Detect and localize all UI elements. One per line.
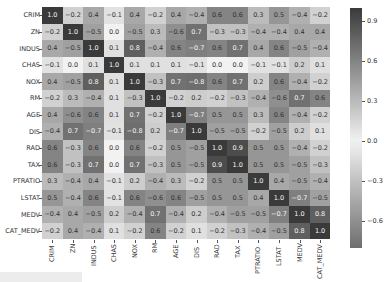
heatmap-cell: 0.3: [166, 173, 187, 190]
y-tick: [39, 82, 42, 83]
x-tick-label: RM: [151, 243, 159, 253]
x-tick: [197, 240, 198, 243]
x-tick-label: DIS: [193, 247, 201, 258]
heatmap-cell: −0.2: [145, 107, 166, 124]
x-tick: [94, 240, 95, 243]
heatmap-cell: 0.1: [104, 107, 125, 124]
heatmap-cell: 0.2: [289, 57, 310, 74]
heatmap-cell: 0.6: [42, 156, 63, 173]
heatmap-cell: −0.5: [269, 223, 290, 240]
heatmap-cell: 0.5: [42, 190, 63, 207]
heatmap-cell: −0.1: [248, 57, 269, 74]
heatmap-cell: 0.4: [83, 7, 104, 24]
heatmap-cell: 0.5: [227, 173, 248, 190]
heatmap-cell: 0.1: [104, 223, 125, 240]
heatmap-cell: −0.7: [289, 190, 310, 207]
y-tick: [39, 49, 42, 50]
heatmap-cell: −0.3: [310, 156, 331, 173]
colorbar-tick: [362, 181, 365, 182]
heatmap-cell: −0.5: [83, 206, 104, 223]
heatmap-cell: 0.4: [83, 173, 104, 190]
heatmap-cell: 0.6: [269, 73, 290, 90]
heatmap-cell: 0.4: [124, 7, 145, 24]
heatmap-cell: 0.5: [207, 107, 228, 124]
y-tick: [39, 115, 42, 116]
heatmap-cell: 1.0: [269, 190, 290, 207]
colorbar-tick-label: −0.3: [367, 177, 383, 185]
colorbar-tick: [362, 141, 365, 142]
heatmap-cell: 0.0: [104, 24, 125, 41]
heatmap-cell: −0.4: [42, 123, 63, 140]
heatmap-cell: −0.4: [248, 223, 269, 240]
heatmap-cell: 0.0: [227, 57, 248, 74]
heatmap-cell: 0.0: [104, 156, 125, 173]
heatmap-cell: 0.7: [124, 156, 145, 173]
heatmap-cell: 0.1: [166, 57, 187, 74]
y-tick: [39, 231, 42, 232]
heatmap-cell: 0.2: [186, 90, 207, 107]
colorbar: [350, 8, 362, 248]
heatmap-cell: −0.4: [310, 40, 331, 57]
y-tick-label: MEDV: [21, 211, 40, 219]
y-tick-label: AGE: [27, 111, 40, 119]
heatmap-cell: −0.4: [145, 40, 166, 57]
heatmap-cell: −0.4: [83, 90, 104, 107]
heatmap-cell: 0.1: [104, 90, 125, 107]
colorbar-tick-label: 0.6: [367, 57, 377, 65]
heatmap-cell: 0.7: [124, 107, 145, 124]
x-tick: [320, 240, 321, 243]
heatmap-cell: −0.2: [166, 223, 187, 240]
heatmap-cell: 0.6: [269, 40, 290, 57]
heatmap-cell: 0.6: [269, 107, 290, 124]
heatmap-cell: 0.5: [166, 156, 187, 173]
heatmap-cell: 0.2: [248, 73, 269, 90]
colorbar-tick: [362, 101, 365, 102]
colorbar-tick-label: 0.0: [367, 137, 377, 145]
heatmap-cell: −0.4: [124, 206, 145, 223]
colorbar-tick-label: −0.6: [367, 217, 383, 225]
heatmap-cell: 0.7: [63, 123, 84, 140]
heatmap-cell: −0.4: [42, 206, 63, 223]
heatmap-cell: −0.5: [269, 123, 290, 140]
heatmap-cell: 0.2: [289, 123, 310, 140]
heatmap-cell: 0.6: [145, 223, 166, 240]
heatmap-cell: 1.0: [124, 73, 145, 90]
heatmap-cell: −0.4: [310, 173, 331, 190]
heatmap-cell: −0.3: [227, 223, 248, 240]
heatmap-cell: 0.6: [83, 190, 104, 207]
heatmap-cell: −0.2: [207, 223, 228, 240]
heatmap-cell: −0.5: [248, 206, 269, 223]
heatmap-cell: −0.5: [124, 24, 145, 41]
heatmap-cell: 0.6: [83, 107, 104, 124]
heatmap-cell: 0.7: [83, 156, 104, 173]
heatmap-cell: −0.6: [269, 90, 290, 107]
heatmap-cell: 0.7: [289, 90, 310, 107]
heatmap-cell: 0.7: [145, 206, 166, 223]
heatmap-cell: 0.2: [104, 206, 125, 223]
heatmap-cell: 1.0: [186, 123, 207, 140]
heatmap-cell: 0.7: [186, 24, 207, 41]
heatmap-cell: 0.4: [166, 7, 187, 24]
heatmap-cell: 0.6: [83, 140, 104, 157]
colorbar-tick-label: 0.3: [367, 97, 377, 105]
y-tick-label: INDUS: [19, 45, 40, 53]
y-tick-label: PTRATIO: [13, 177, 40, 185]
heatmap-cell: 0.7: [166, 73, 187, 90]
heatmap-cell: 0.4: [42, 40, 63, 57]
x-tick-label: CAT_MEDV: [316, 244, 324, 279]
y-tick: [39, 98, 42, 99]
heatmap-cell: −0.4: [289, 73, 310, 90]
bottom-scrollbar[interactable]: [0, 272, 82, 282]
x-tick: [114, 240, 115, 243]
y-tick: [39, 15, 42, 16]
heatmap-cell: −0.4: [207, 206, 228, 223]
heatmap-cell: −0.2: [186, 173, 207, 190]
heatmap-cell: −0.1: [104, 123, 125, 140]
heatmap-cell: −0.8: [186, 73, 207, 90]
y-tick-label: CHAS: [22, 61, 40, 69]
x-tick-label: RAD: [213, 244, 221, 258]
heatmap-cell: 1.0: [145, 90, 166, 107]
heatmap-cell: 0.4: [289, 24, 310, 41]
heatmap-cell: −0.5: [63, 40, 84, 57]
x-tick: [258, 240, 259, 243]
